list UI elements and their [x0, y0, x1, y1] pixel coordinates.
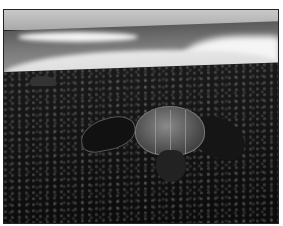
left-flipper [77, 113, 138, 156]
turtle-shell [135, 106, 205, 156]
turtle-head [156, 150, 186, 182]
shell-ridge [170, 110, 171, 154]
photo-frame [3, 9, 279, 224]
wave-crest-distant [18, 32, 138, 42]
leatherback-turtle [80, 106, 250, 196]
shell-ridge [185, 110, 186, 154]
shell-ridge [155, 110, 156, 154]
rock [30, 76, 56, 86]
